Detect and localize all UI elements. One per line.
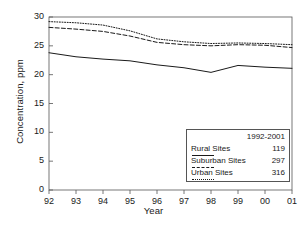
y-axis-ticks: [49, 17, 53, 190]
legend-swatch-dotted-icon: [192, 179, 214, 180]
x-tick-label-93: 93: [65, 196, 87, 206]
y-tick-label-20: 20: [22, 69, 44, 79]
legend-header: 1992-2001: [191, 132, 285, 142]
legend-label-suburban: Suburban Sites: [191, 155, 246, 166]
x-tick-label-99: 99: [227, 196, 249, 206]
series-line-rural-sites: [49, 53, 292, 73]
x-tick-label-00: 00: [254, 196, 276, 206]
legend-label-urban: Urban Sites: [191, 167, 233, 178]
x-tick-label-97: 97: [173, 196, 195, 206]
legend-row-urban: Urban Sites 316: [191, 167, 285, 178]
legend-row-suburban: Suburban Sites 297: [191, 155, 285, 166]
data-series: [49, 22, 292, 73]
y-tick-label-25: 25: [22, 40, 44, 50]
x-axis-title: Year: [0, 205, 307, 216]
x-axis-ticks: [49, 190, 292, 194]
legend: 1992-2001 Rural Sites 119 Suburban Sites…: [186, 129, 290, 182]
x-tick-label-01: 01: [281, 196, 303, 206]
legend-value-rural: 119: [272, 143, 285, 154]
y-tick-label-0: 0: [22, 184, 44, 194]
plot-area: [0, 0, 307, 226]
x-tick-label-95: 95: [119, 196, 141, 206]
legend-row-rural: Rural Sites 119: [191, 143, 285, 154]
y-tick-label-10: 10: [22, 126, 44, 136]
legend-label-rural: Rural Sites: [191, 143, 230, 154]
x-tick-label-96: 96: [146, 196, 168, 206]
series-line-suburban-sites: [49, 27, 292, 47]
x-tick-label-92: 92: [38, 196, 60, 206]
x-tick-label-98: 98: [200, 196, 222, 206]
x-tick-label-94: 94: [92, 196, 114, 206]
chart-figure: Concentration, ppm Year 051015202530 929…: [0, 0, 307, 226]
y-tick-label-15: 15: [22, 98, 44, 108]
y-tick-label-30: 30: [22, 11, 44, 21]
legend-value-urban: 316: [272, 167, 285, 178]
y-tick-label-5: 5: [22, 155, 44, 165]
legend-value-suburban: 297: [272, 155, 285, 166]
series-line-urban-sites: [49, 22, 292, 45]
